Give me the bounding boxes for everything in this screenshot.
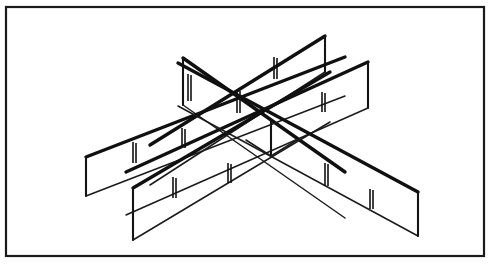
isometric-partition-drawing: Cross-shaped partition assembly isometri… <box>0 0 494 266</box>
figure-container: Cross-shaped partition assembly isometri… <box>0 0 494 266</box>
